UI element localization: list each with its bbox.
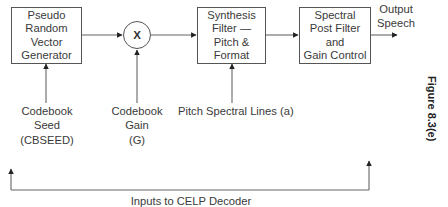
inputs-to-celp-decoder-label: Inputs to CELP Decoder (120, 194, 262, 207)
figure-number-label: Figure 8.3(e) (426, 76, 438, 141)
codebook-seed-label: Codebook Seed (CBSEED) (11, 104, 83, 147)
label-line: Gain (107, 118, 167, 132)
label-line: Seed (11, 118, 83, 132)
label-line: (CBSEED) (11, 133, 83, 147)
block-label: Format (214, 49, 249, 62)
block-label: and (326, 36, 345, 49)
label-line: Inputs to CELP Decoder (120, 194, 262, 207)
pseudo-random-vector-generator-block: Pseudo Random Vector Generator (11, 7, 82, 64)
label-line: Output (374, 2, 418, 16)
celp-decoder-diagram: Pseudo Random Vector Generator X Synthes… (0, 0, 448, 207)
multiplier-node: X (123, 21, 151, 49)
pitch-spectral-lines-label: Pitch Spectral Lines (a) (178, 104, 288, 118)
block-label: Pitch & (214, 36, 249, 49)
label-line: (G) (107, 133, 167, 147)
label-line: Codebook (11, 104, 83, 118)
synthesis-filter-block: Synthesis Filter — Pitch & Format (197, 7, 266, 64)
block-label: Vector (31, 36, 63, 49)
codebook-gain-label: Codebook Gain (G) (107, 104, 167, 147)
block-label: Gain Control (304, 49, 367, 62)
label-line: Speech (374, 16, 418, 30)
block-label: Random (25, 22, 67, 35)
output-speech-label: Output Speech (374, 2, 418, 31)
block-label: Synthesis (207, 9, 256, 22)
block-label: Post Filter (310, 22, 360, 35)
label-line: Codebook (107, 104, 167, 118)
label-line: Pitch Spectral Lines (a) (178, 104, 288, 118)
spectral-post-filter-block: Spectral Post Filter and Gain Control (299, 7, 371, 64)
block-label: Spectral (314, 9, 355, 22)
block-label: Pseudo (28, 9, 66, 22)
multiply-symbol: X (133, 29, 141, 41)
block-label: Generator (21, 49, 71, 62)
block-label: Filter — (212, 22, 251, 35)
